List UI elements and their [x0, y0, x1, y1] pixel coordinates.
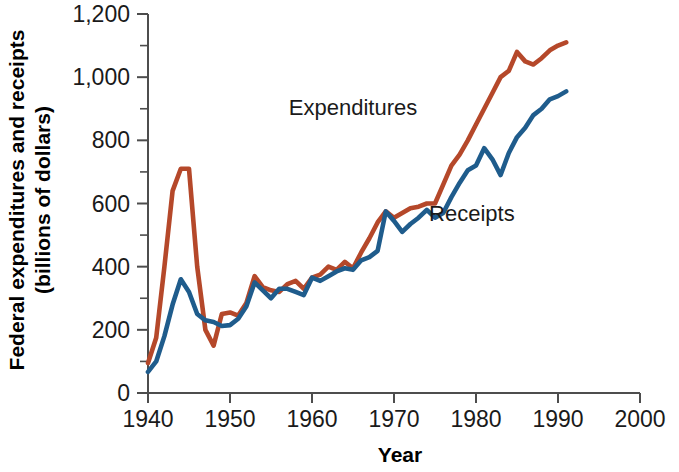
x-tick-label: 2000: [614, 406, 665, 432]
y-tick-label: 1,200: [72, 1, 130, 27]
y-axis-title-line2: (billions of dollars): [31, 106, 54, 294]
y-tick-label: 600: [92, 191, 130, 217]
line-chart: Federal expenditures and receipts (billi…: [0, 0, 679, 472]
annotation-receipts: Receipts: [429, 201, 515, 226]
y-axis-tick-labels: 02004006008001,0001,200: [72, 1, 130, 406]
chart-container: Federal expenditures and receipts (billi…: [0, 0, 679, 472]
y-axis-title: Federal expenditures and receipts (billi…: [5, 30, 54, 371]
x-tick-label: 1950: [204, 406, 255, 432]
x-axis-tick-labels: 1940195019601970198019902000: [122, 406, 665, 432]
axis-lines: [148, 14, 640, 393]
y-axis-title-line1: Federal expenditures and receipts: [5, 30, 28, 371]
x-axis-major-ticks: [148, 393, 640, 403]
x-tick-label: 1940: [122, 406, 173, 432]
x-axis-title: Year: [378, 443, 422, 466]
x-tick-label: 1980: [450, 406, 501, 432]
x-tick-label: 1970: [368, 406, 419, 432]
series-line-receipts: [148, 91, 566, 371]
y-tick-label: 800: [92, 127, 130, 153]
y-tick-label: 200: [92, 317, 130, 343]
y-tick-label: 400: [92, 254, 130, 280]
annotation-expenditures: Expenditures: [289, 95, 417, 120]
x-tick-label: 1960: [286, 406, 337, 432]
y-tick-label: 0: [117, 380, 130, 406]
y-axis-major-ticks: [137, 14, 148, 393]
y-tick-label: 1,000: [72, 64, 130, 90]
x-tick-label: 1990: [532, 406, 583, 432]
